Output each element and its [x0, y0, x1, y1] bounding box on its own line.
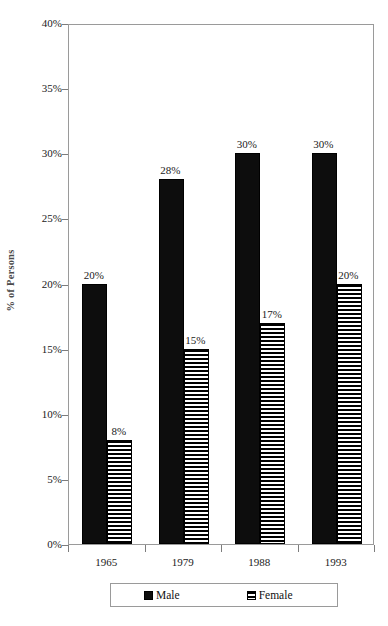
y-tick-label: 35%	[18, 83, 62, 94]
bar-male-1979	[159, 179, 184, 544]
data-label-female-1979: 15%	[175, 335, 215, 346]
data-label-male-1988: 30%	[227, 139, 267, 150]
legend-swatch-male	[144, 591, 153, 600]
data-label-female-1965: 8%	[99, 426, 139, 437]
x-tick-mark	[374, 545, 375, 552]
bar-female-1988	[260, 323, 285, 544]
legend-entry-female: Female	[247, 589, 293, 601]
bar-male-1993	[312, 153, 337, 544]
bar-female-1965	[107, 440, 132, 544]
bar-female-1979	[184, 349, 209, 544]
legend-swatch-female	[247, 591, 256, 600]
x-tick-mark	[145, 545, 146, 552]
data-label-female-1988: 17%	[252, 309, 292, 320]
data-label-male-1965: 20%	[74, 270, 114, 281]
y-tick-label: 20%	[18, 279, 62, 290]
y-tick-label: 30%	[18, 148, 62, 159]
y-tick-label: 0%	[18, 539, 62, 550]
x-tick-mark	[68, 545, 69, 552]
bar-male-1965	[82, 284, 107, 545]
y-tick-label: 25%	[18, 213, 62, 224]
bar-male-1988	[235, 153, 260, 544]
legend-label-female: Female	[259, 589, 293, 601]
x-category-label-1979: 1979	[158, 556, 208, 568]
data-label-male-1979: 28%	[150, 165, 190, 176]
x-category-label-1965: 1965	[81, 556, 131, 568]
bar-female-1993	[337, 284, 362, 545]
data-label-male-1993: 30%	[303, 139, 343, 150]
y-tick-label: 10%	[18, 409, 62, 420]
bar-chart-figure: % of Persons 0%5%10%15%20%25%30%35%40% 2…	[0, 0, 388, 626]
y-tick-label: 15%	[18, 344, 62, 355]
x-category-label-1988: 1988	[234, 556, 284, 568]
legend-entry-male: Male	[144, 589, 180, 601]
y-axis-title-label: % of Persons	[6, 249, 17, 311]
x-tick-mark	[221, 545, 222, 552]
y-tick-label: 40%	[18, 18, 62, 29]
legend-label-male: Male	[156, 589, 180, 601]
y-tick-label: 5%	[18, 474, 62, 485]
legend: MaleFemale	[110, 583, 338, 607]
x-category-label-1993: 1993	[311, 556, 361, 568]
x-tick-mark	[298, 545, 299, 552]
cropped-title-remnant	[44, 0, 194, 9]
data-label-female-1993: 20%	[328, 270, 368, 281]
plot-area	[68, 24, 374, 545]
